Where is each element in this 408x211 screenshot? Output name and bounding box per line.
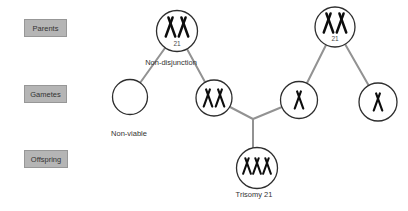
stage-label-parents: Parents xyxy=(24,19,67,37)
parent-left-chromosome-number: 21 xyxy=(173,40,180,47)
diagram-canvas: Parents Gametes Offspring Non-disjunctio… xyxy=(0,0,408,211)
node-gamete-monosomic-left xyxy=(281,82,318,119)
stage-label-offspring: Offspring xyxy=(24,150,68,168)
gamete-monosomic-right-circle xyxy=(359,83,397,121)
edge-monoleft-junction xyxy=(253,107,282,119)
node-gamete-empty xyxy=(113,80,148,115)
node-gamete-monosomic-right xyxy=(359,83,397,121)
edge-disomic-junction xyxy=(230,107,253,119)
gamete-disomic-circle xyxy=(196,80,232,116)
offspring-trisomy-circle xyxy=(237,148,278,189)
parent-right-chromosome-number: 21 xyxy=(331,35,338,42)
gamete-monosomic-left-circle xyxy=(281,82,318,119)
non-viable-caption: Non-viable xyxy=(111,129,147,138)
edge-parentright-monoright xyxy=(345,44,369,86)
node-offspring-trisomy xyxy=(237,148,278,189)
trisomy-21-caption: Trisomy 21 xyxy=(236,190,273,199)
stage-label-gametes: Gametes xyxy=(24,85,67,103)
edge-parentright-monoleft xyxy=(307,45,326,83)
non-disjunction-caption: Non-disjunction xyxy=(145,58,197,67)
node-gamete-disomic xyxy=(196,80,232,116)
gamete-empty-circle xyxy=(113,80,148,115)
